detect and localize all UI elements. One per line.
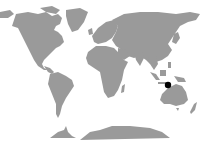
tasmania [176,108,179,111]
madagascar [121,84,125,93]
location-marker [165,82,171,88]
borneo [160,70,166,76]
sumatra [150,72,160,80]
java [158,82,166,84]
philippines [168,62,171,68]
world-map [0,0,210,142]
greenland [66,8,88,32]
north-america [12,12,64,70]
australia [160,84,188,106]
new-zealand [190,102,197,114]
south-america [48,72,74,118]
antarctica-west [50,126,76,138]
alaska-west [0,10,14,18]
new-guinea [174,76,186,82]
india [134,52,144,66]
antarctica-east [80,126,170,140]
landmasses [0,6,200,140]
british-isles [88,28,93,35]
